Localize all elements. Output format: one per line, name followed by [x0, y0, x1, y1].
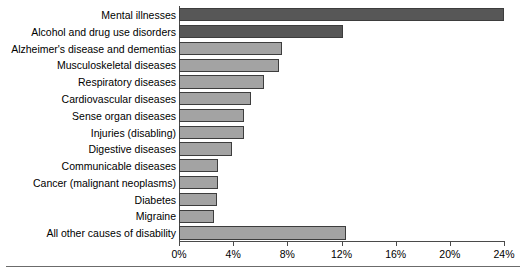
- bar-row: [179, 124, 504, 142]
- bar: [179, 8, 504, 21]
- bar: [179, 126, 244, 139]
- bar-row: [179, 90, 504, 108]
- bar-chart: Mental illnessesAlcohol and drug use dis…: [0, 0, 526, 277]
- tick-mark: [396, 241, 397, 246]
- bar: [179, 193, 217, 206]
- tick-label: 12%: [331, 248, 352, 261]
- bar: [179, 142, 232, 155]
- tick-mark: [287, 241, 288, 246]
- bar-row: [179, 174, 504, 192]
- category-label: Diabetes: [0, 191, 176, 209]
- bar: [179, 92, 251, 105]
- category-label: Alcohol and drug use disorders: [0, 23, 176, 41]
- category-label: Cardiovascular diseases: [0, 90, 176, 108]
- bar: [179, 210, 214, 223]
- category-label: Respiratory diseases: [0, 73, 176, 91]
- tick-mark: [450, 241, 451, 246]
- bar: [179, 59, 279, 72]
- bar-row: [179, 23, 504, 41]
- category-label: Musculoskeletal diseases: [0, 56, 176, 74]
- category-axis-labels: Mental illnessesAlcohol and drug use dis…: [0, 6, 176, 241]
- bar-row: [179, 224, 504, 242]
- category-label: All other causes of disability: [0, 224, 176, 242]
- tick-mark: [504, 241, 505, 246]
- category-label: Digestive diseases: [0, 140, 176, 158]
- bar-row: [179, 157, 504, 175]
- bar-row: [179, 140, 504, 158]
- tick-label: 0%: [171, 248, 186, 261]
- bar: [179, 176, 218, 189]
- bar: [179, 25, 343, 38]
- bar-series: [179, 6, 504, 241]
- category-label: Injuries (disabling): [0, 124, 176, 142]
- bar-row: [179, 6, 504, 24]
- tick-label: 8%: [280, 248, 295, 261]
- bar-row: [179, 207, 504, 225]
- tick-label: 24%: [493, 248, 514, 261]
- plot-area: [179, 6, 504, 241]
- bar: [179, 42, 282, 55]
- category-label: Sense organ diseases: [0, 107, 176, 125]
- tick-label: 20%: [439, 248, 460, 261]
- bar-row: [179, 107, 504, 125]
- tick-label: 16%: [385, 248, 406, 261]
- category-label: Alzheimer's disease and dementias: [0, 40, 176, 58]
- bar: [179, 159, 218, 172]
- tick-label: 4%: [226, 248, 241, 261]
- bar-row: [179, 40, 504, 58]
- category-label: Mental illnesses: [0, 6, 176, 24]
- tick-mark: [233, 241, 234, 246]
- bar-row: [179, 73, 504, 91]
- category-label: Communicable diseases: [0, 157, 176, 175]
- category-label: Migraine: [0, 207, 176, 225]
- bar: [179, 226, 346, 239]
- footer-divider: [6, 266, 520, 267]
- bar: [179, 75, 264, 88]
- tick-mark: [342, 241, 343, 246]
- bar: [179, 109, 244, 122]
- category-label: Cancer (malignant neoplasms): [0, 174, 176, 192]
- tick-mark: [179, 241, 180, 246]
- bar-row: [179, 191, 504, 209]
- bar-row: [179, 56, 504, 74]
